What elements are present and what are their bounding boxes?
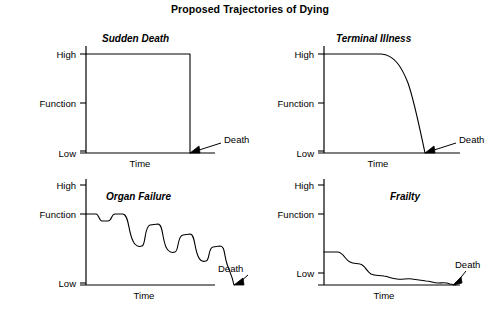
trajectory-line-sudden-death — [86, 54, 190, 153]
x-axis-label-time: Time — [134, 290, 155, 301]
y-axis-label-high: High — [294, 180, 314, 191]
panel-sudden-death: High Function Low Sudden Death Death Tim… — [0, 20, 250, 175]
page-title: Proposed Trajectories of Dying — [0, 3, 500, 15]
death-annotation-label: Death — [224, 134, 249, 145]
y-axis-label-function: Function — [40, 98, 76, 109]
death-annotation-label: Death — [459, 134, 484, 145]
trajectory-line-terminal-illness — [324, 54, 425, 153]
panel-frailty: High Function Low Frailty Death Time — [250, 175, 500, 325]
panel-title-sudden-death: Sudden Death — [102, 33, 169, 44]
x-axis-label-time: Time — [130, 158, 151, 169]
panel-organ-failure: High Function Low Organ Failure Death Ti… — [0, 175, 250, 325]
panel-title-frailty: Frailty — [390, 191, 420, 202]
y-axis-label-high: High — [294, 49, 314, 60]
y-axis-label-high: High — [56, 180, 76, 191]
y-axis-label-low: Low — [59, 278, 77, 289]
figure-container: Proposed Trajectories of Dying High Func… — [0, 0, 500, 325]
y-axis-label-high: High — [56, 49, 76, 60]
death-annotation-label: Death — [455, 259, 480, 270]
y-axis-label-function: Function — [278, 98, 314, 109]
death-annotation-label: Death — [218, 263, 243, 274]
y-axis-label-low: Low — [59, 148, 77, 159]
y-axis-label-function: Function — [40, 209, 76, 220]
y-axis-label-low: Low — [297, 268, 315, 279]
x-axis-label-time: Time — [374, 290, 395, 301]
y-axis-label-low: Low — [297, 148, 315, 159]
trajectory-line-frailty — [324, 252, 456, 285]
death-arrow-head — [453, 277, 462, 285]
y-axis-label-function: Function — [278, 209, 314, 220]
death-arrow-head — [190, 146, 200, 153]
panel-title-organ-failure: Organ Failure — [106, 191, 171, 202]
x-axis-label-time: Time — [368, 158, 389, 169]
death-arrow-head — [234, 278, 244, 285]
trajectory-line-organ-failure — [86, 214, 234, 285]
panel-title-terminal-illness: Terminal Illness — [336, 33, 412, 44]
panel-terminal-illness: High Function Low Terminal Illness Death… — [250, 20, 500, 175]
death-arrow-head — [425, 146, 435, 153]
